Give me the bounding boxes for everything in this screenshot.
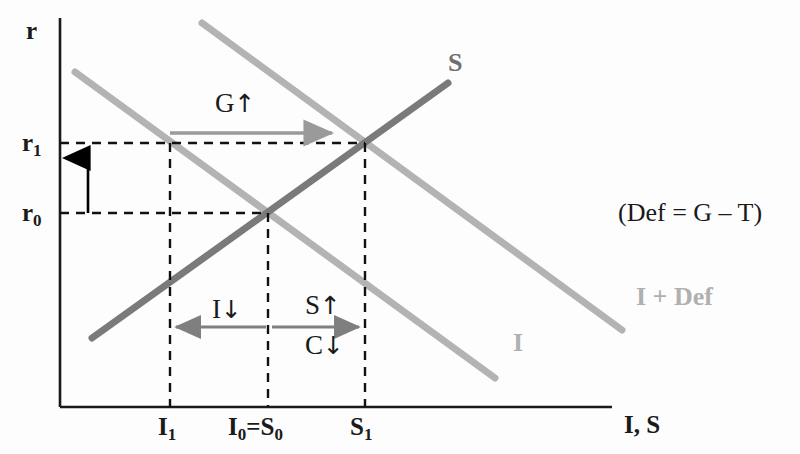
annotation-saving-rise: S↑ [305, 292, 341, 319]
diagram-svg [0, 0, 800, 454]
annotation-investment-fall: I↓ [212, 296, 242, 323]
x-tick-I0-base: I [228, 413, 238, 440]
x-tick-I1-base: I [158, 413, 168, 440]
x-tick-S0-base: =S [246, 413, 274, 440]
x-axis-label: I, S [624, 412, 660, 437]
arrow-down-icon: ↓ [221, 295, 242, 324]
x-tick-I1: I1 [158, 414, 176, 439]
y-tick-r0-sub: 0 [33, 211, 42, 230]
x-tick-I0-sub: 0 [238, 425, 247, 444]
annotation-c-label: C [305, 330, 323, 360]
investment-curve [75, 72, 495, 378]
x-tick-I1-sub: 1 [168, 425, 177, 444]
x-tick-S1-base: S [350, 413, 364, 440]
deficit-equation: (Def = G – T) [618, 200, 762, 226]
annotation-government-spending: G↑ [215, 90, 255, 117]
figure-canvas: r I, S r1 r0 I1 I0=S0 S1 S I I + Def G↑ … [0, 0, 800, 454]
investment-curve-label: I [513, 330, 523, 356]
y-tick-r0: r0 [22, 200, 42, 225]
y-tick-r1-sub: 1 [33, 141, 42, 160]
annotation-s-label: S [305, 290, 320, 320]
arrow-down-icon: ↓ [323, 331, 344, 360]
investment-plus-deficit-curve [202, 23, 622, 330]
y-axis-label: r [26, 18, 37, 43]
x-tick-S1: S1 [350, 414, 372, 439]
annotation-g-label: G [215, 88, 235, 118]
y-tick-r1: r1 [22, 130, 42, 155]
x-tick-S1-sub: 1 [364, 425, 373, 444]
x-tick-I0-S0: I0=S0 [228, 414, 283, 439]
saving-curve-label: S [448, 50, 462, 76]
y-tick-r1-base: r [22, 129, 33, 156]
arrow-up-icon: ↑ [235, 89, 256, 118]
arrow-up-icon: ↑ [320, 291, 341, 320]
y-tick-r0-base: r [22, 199, 33, 226]
x-tick-S0-sub: 0 [274, 425, 283, 444]
annotation-i-label: I [212, 294, 221, 324]
investment-plus-deficit-curve-label: I + Def [636, 284, 713, 310]
annotation-consumption-fall: C↓ [305, 332, 344, 359]
